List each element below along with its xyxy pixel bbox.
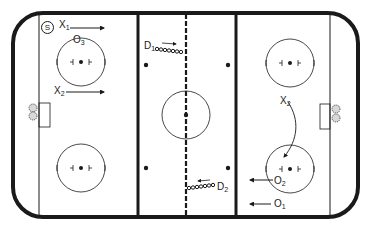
- player-o1-label: O1: [274, 199, 286, 210]
- faceoff-circle-right-top: [266, 39, 314, 87]
- d2-path: [187, 180, 214, 190]
- player-d1-label: D1: [144, 41, 155, 52]
- hockey-rink: [0, 0, 368, 229]
- player-x2-left-label: X2: [54, 86, 65, 97]
- neutral-dot-top-right: [226, 63, 230, 67]
- player-o3-label: O3: [73, 35, 85, 46]
- player-x2-right-label: X2: [280, 96, 291, 107]
- player-d2-label: D2: [217, 182, 228, 193]
- neutral-dot-bottom-right: [226, 166, 230, 170]
- neutral-dot-bottom-left: [144, 166, 148, 170]
- x2-right-curve-arrow: [284, 102, 296, 157]
- player-o2-label: O2: [274, 176, 286, 187]
- neutral-dot-top-left: [144, 63, 148, 67]
- center-faceoff-dot: [184, 113, 188, 117]
- player-x1-label: X1: [59, 20, 70, 31]
- faceoff-circle-left-bottom: [57, 144, 105, 192]
- start-marker: S: [41, 21, 54, 34]
- d1-path: [155, 43, 182, 54]
- right-goal: [320, 104, 340, 129]
